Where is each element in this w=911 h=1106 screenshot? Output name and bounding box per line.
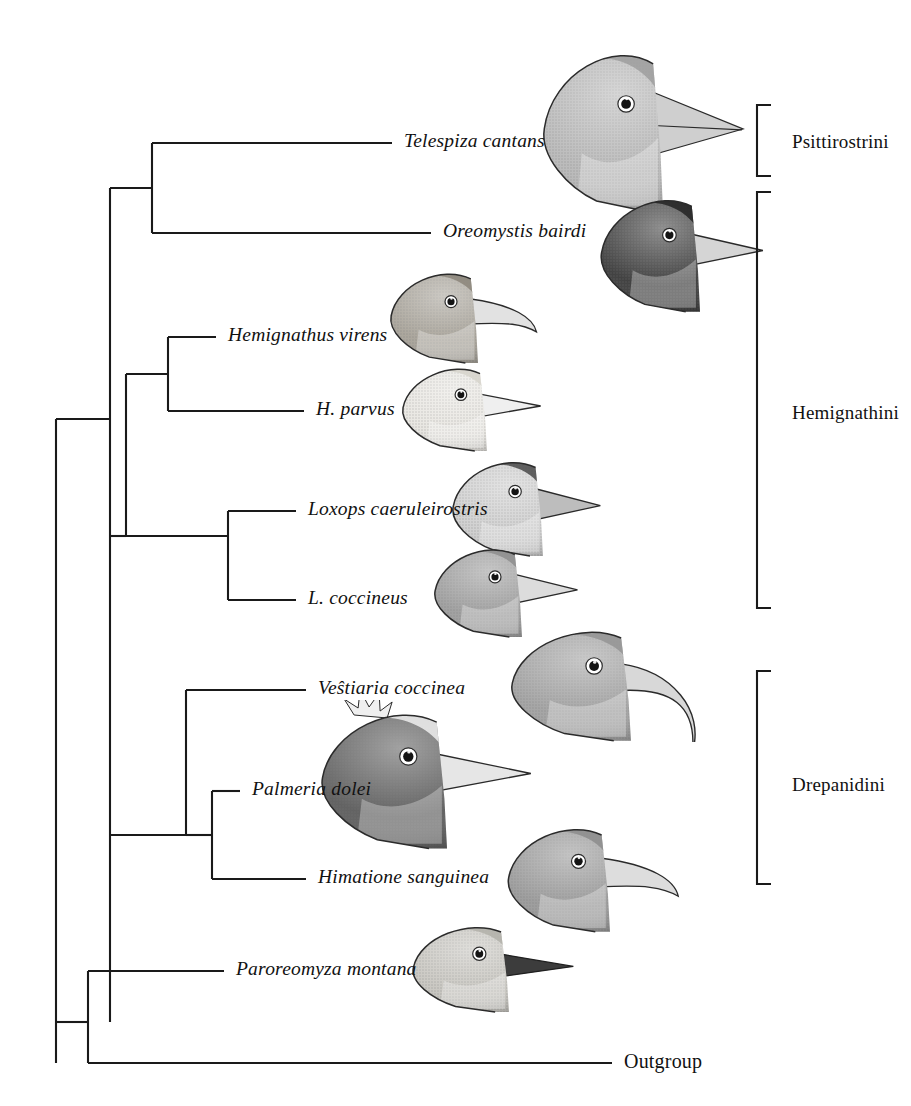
tip-label-h_parvus: H. parvus xyxy=(316,398,395,420)
tip-label-palmeria: Palmeria dolei xyxy=(252,778,371,800)
clade-bracket-hemignathini xyxy=(757,192,771,608)
tip-label-paroreomyza: Paroreomyza montana xyxy=(236,958,417,980)
tip-label-telespiza: Telespiza cantans xyxy=(404,130,545,152)
tip-label-outgroup: Outgroup xyxy=(624,1050,702,1073)
tip-label-vestiaria: Veŝtiaria coccinea xyxy=(318,677,465,699)
tree-lines xyxy=(0,0,911,1106)
tip-label-l_coccineus: L. coccineus xyxy=(308,587,408,609)
clade-label-psittirostrini: Psittirostrini xyxy=(792,131,889,153)
clade-bracket-psittirostrini xyxy=(757,105,771,176)
tip-label-loxops_caer: Loxops caeruleirostris xyxy=(308,498,488,520)
clade-label-hemignathini: Hemignathini xyxy=(792,402,899,424)
clade-bracket-drepanidini xyxy=(757,671,771,884)
tip-label-hem_virens: Hemignathus virens xyxy=(228,324,387,346)
tip-label-oreomystis: Oreomystis bairdi xyxy=(443,220,586,242)
clade-label-drepanidini: Drepanidini xyxy=(792,774,885,796)
phylogenetic-tree-figure: Telespiza cantansOreomystis bairdiHemign… xyxy=(0,0,911,1106)
tip-label-himatione: Himatione sanguinea xyxy=(318,866,489,888)
